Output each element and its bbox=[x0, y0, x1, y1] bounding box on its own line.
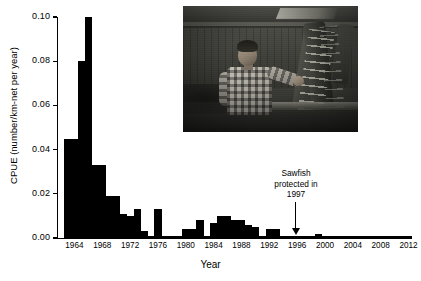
y-axis-tick-label: 0.04 bbox=[32, 145, 50, 154]
y-axis-tick bbox=[53, 149, 57, 150]
annotation-line-3: 1997 bbox=[250, 189, 342, 200]
y-axis-tick bbox=[53, 237, 57, 238]
x-axis-tick-label: 2012 bbox=[399, 241, 417, 250]
x-axis-tick-labels: 1964196819721976198019841988199219962000… bbox=[0, 241, 421, 255]
y-axis-tick-label: 0.02 bbox=[32, 189, 50, 198]
inset-photograph bbox=[183, 6, 358, 132]
y-axis-tick bbox=[53, 193, 57, 194]
protection-annotation: Sawfish protected in 1997 bbox=[250, 168, 342, 200]
annotation-line-2: protected in bbox=[250, 179, 342, 190]
y-axis-tick bbox=[53, 16, 57, 17]
x-axis-tick-label: 1992 bbox=[260, 241, 278, 250]
x-axis-title: Year bbox=[0, 259, 421, 270]
annotation-line-1: Sawfish bbox=[250, 168, 342, 179]
x-axis-tick-label: 2000 bbox=[316, 241, 334, 250]
sawfish-cpue-figure: 0.000.020.040.060.080.10 CPUE (number/km… bbox=[0, 0, 421, 281]
x-axis-tick-label: 1976 bbox=[149, 241, 167, 250]
bar bbox=[154, 209, 161, 238]
y-axis-tick bbox=[53, 61, 57, 62]
y-axis-tick-label: 0.10 bbox=[32, 12, 50, 21]
x-axis-tick-label: 2004 bbox=[344, 241, 362, 250]
x-axis-tick-label: 1996 bbox=[288, 241, 306, 250]
x-axis-tick-label: 2008 bbox=[372, 241, 390, 250]
annotation-arrow-head bbox=[292, 228, 300, 235]
x-axis-tick-label: 1980 bbox=[177, 241, 195, 250]
x-axis-tick-label: 1972 bbox=[121, 241, 139, 250]
x-axis-tick-label: 1964 bbox=[65, 241, 83, 250]
y-axis-tick bbox=[53, 105, 57, 106]
x-axis-spine bbox=[57, 238, 412, 239]
y-axis-tick-label: 0.08 bbox=[32, 56, 50, 65]
photo-vignette bbox=[183, 6, 358, 132]
annotation-arrow-shaft bbox=[295, 202, 296, 230]
bar bbox=[196, 220, 203, 238]
x-axis-tick-label: 1988 bbox=[232, 241, 250, 250]
x-axis-tick-label: 1984 bbox=[205, 241, 223, 250]
y-axis-title: CPUE (number/km-net per year) bbox=[8, 11, 19, 221]
x-axis-tick-label: 1968 bbox=[93, 241, 111, 250]
y-axis-tick-label: 0.06 bbox=[32, 100, 50, 109]
